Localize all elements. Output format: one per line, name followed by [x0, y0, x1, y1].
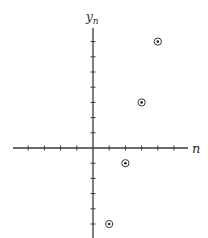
data-point-marker	[122, 160, 129, 167]
data-point-marker	[106, 220, 113, 227]
marker-dot-icon	[140, 101, 143, 104]
x-axis-label: n	[192, 141, 200, 156]
x-axis: n	[13, 141, 200, 156]
marker-dot-icon	[157, 40, 160, 43]
data-points	[106, 38, 162, 228]
data-point-marker	[154, 38, 161, 45]
y-axis-label: yn	[85, 10, 99, 26]
data-point-marker	[138, 99, 145, 106]
y-axis: yn	[85, 10, 99, 238]
marker-dot-icon	[108, 223, 111, 226]
y-axis-label-subscript: n	[93, 16, 99, 26]
marker-dot-icon	[124, 162, 127, 165]
scatter-chart: n yn	[0, 0, 208, 238]
